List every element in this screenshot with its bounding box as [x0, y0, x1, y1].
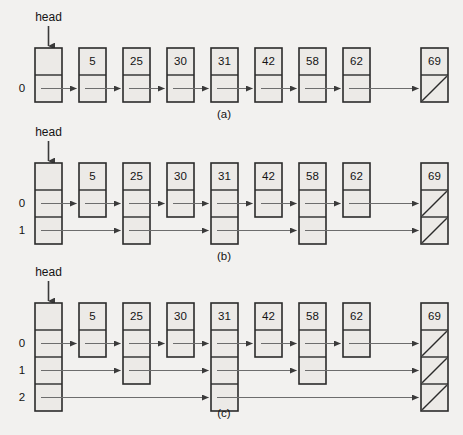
node-value: 5 [89, 170, 95, 182]
node-value: 62 [350, 55, 363, 67]
node-value: 31 [218, 170, 231, 182]
node-value: 30 [174, 310, 187, 322]
skip-list-panel-b: head01525303142586269(b) [19, 125, 448, 262]
level-label-0: 0 [19, 197, 25, 209]
node-value: 25 [130, 55, 143, 67]
node-value: 58 [306, 170, 319, 182]
head-label: head [35, 125, 62, 139]
node-value: 42 [262, 310, 275, 322]
node-value: 42 [262, 170, 275, 182]
node-value: 58 [306, 310, 319, 322]
skip-list-svg: head0525303142586269(a)head0152530314258… [0, 0, 463, 435]
node-value: 62 [350, 170, 363, 182]
node-value: 62 [350, 310, 363, 322]
node-value: 25 [130, 170, 143, 182]
panel-caption-c: (c) [217, 407, 231, 419]
node-value: 42 [262, 55, 275, 67]
head-label: head [35, 265, 62, 279]
node-value: 69 [428, 55, 441, 67]
head-label: head [35, 10, 62, 24]
level-label-1: 1 [19, 364, 25, 376]
node-value: 58 [306, 55, 319, 67]
panel-caption-a: (a) [217, 108, 231, 120]
node-value: 69 [428, 170, 441, 182]
node-value: 5 [89, 55, 95, 67]
panels-root: head0525303142586269(a)head0152530314258… [19, 10, 448, 419]
level-label-1: 1 [19, 224, 25, 236]
skip-list-panel-c: head012525303142586269(c) [19, 265, 448, 419]
panel-caption-b: (b) [217, 250, 231, 262]
level-label-0: 0 [19, 82, 25, 94]
skip-list-panel-a: head0525303142586269(a) [19, 10, 448, 120]
level-label-0: 0 [19, 337, 25, 349]
node-value: 31 [218, 310, 231, 322]
node-value: 5 [89, 310, 95, 322]
node-value: 25 [130, 310, 143, 322]
skip-list-figure: head0525303142586269(a)head0152530314258… [0, 0, 463, 435]
level-label-2: 2 [19, 391, 25, 403]
node-value: 30 [174, 170, 187, 182]
node-value: 69 [428, 310, 441, 322]
node-value: 31 [218, 55, 231, 67]
node-value: 30 [174, 55, 187, 67]
